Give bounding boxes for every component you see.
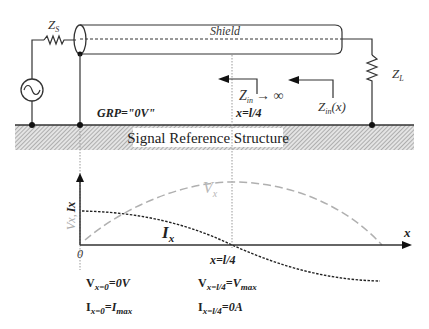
svg-text:Vx=0=0V: Vx=0=0V — [86, 276, 131, 292]
shield-label: Shield — [210, 24, 241, 38]
zin-x-arrow — [288, 76, 333, 98]
origin-label: 0 — [77, 247, 83, 261]
current-curve — [82, 211, 380, 281]
signal-reference-structure: Signal Reference Structure — [15, 125, 414, 150]
quarter-tick-label: x=l/4 — [209, 253, 236, 267]
ground-label: GRP="0V" — [97, 106, 155, 120]
equations-right: Vx=l/4=Vmax Ix=l/4=0A — [198, 276, 257, 316]
source-resistor-icon — [44, 36, 76, 44]
load-resistor-icon — [367, 55, 377, 125]
current-curve-label: Ix — [161, 223, 175, 244]
quarter-wavelength-label: x=l/4 — [235, 106, 262, 120]
zin-infinity-label: Zin→ ∞ — [239, 88, 284, 105]
svg-text:Vx,Ix: Vx,Ix — [64, 202, 78, 230]
x-axis-label: x — [403, 225, 411, 240]
zin-x-label: Zin(x) — [318, 99, 346, 116]
y-axis-label: Vx,Ix — [64, 202, 78, 230]
zl-label: ZL — [392, 66, 404, 83]
load-circuit: ZL — [342, 39, 404, 128]
diagram-canvas: Signal Reference Structure ZS Shield ZL … — [0, 0, 429, 329]
svg-text:Ix=l/4=0A: Ix=l/4=0A — [198, 300, 243, 316]
voltage-curve — [85, 182, 382, 245]
zin-infinity-arrow — [218, 75, 257, 94]
reference-label: Signal Reference Structure — [127, 130, 289, 146]
zs-label: ZS — [48, 17, 59, 34]
svg-text:Vx=l/4=Vmax: Vx=l/4=Vmax — [198, 276, 257, 292]
equations-left: Vx=0=0V Ix=0=Imax — [86, 276, 133, 316]
vi-graph: x 0 x=l/4 Vx,Ix Vx Ix — [64, 173, 412, 281]
voltage-curve-label: Vx — [203, 179, 218, 199]
source-circuit: ZS — [21, 17, 76, 128]
svg-text:Ix=0=Imax: Ix=0=Imax — [86, 300, 133, 316]
